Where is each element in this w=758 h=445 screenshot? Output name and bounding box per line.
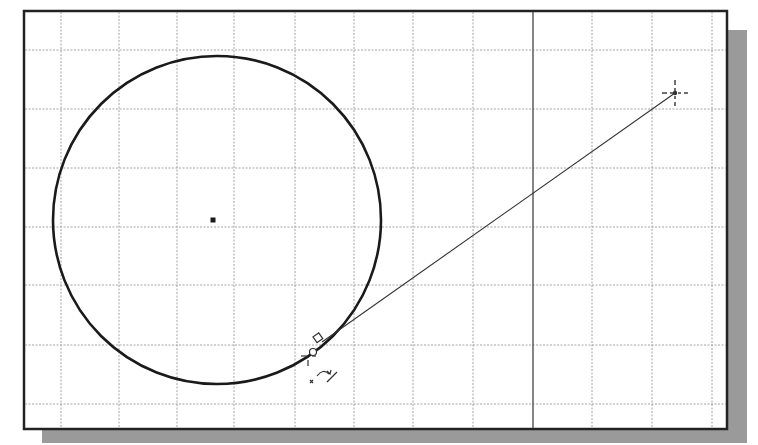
circle-center-point[interactable] xyxy=(211,218,216,223)
sketch-canvas[interactable] xyxy=(0,0,758,445)
viewport-frame xyxy=(24,11,727,429)
